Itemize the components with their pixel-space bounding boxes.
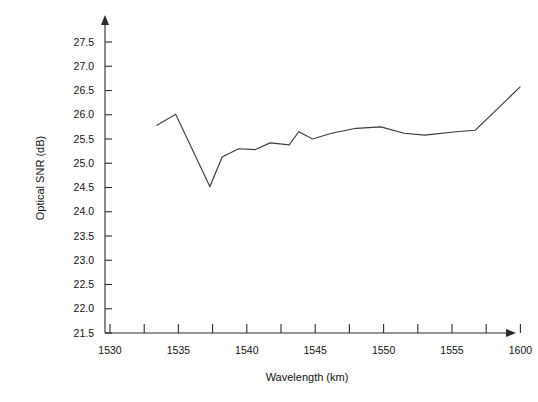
y-tick-label: 22.0 [74, 302, 95, 314]
y-tick-label: 24.0 [74, 205, 95, 217]
line-chart-canvas: 21.522.022.523.023.524.024.525.025.526.0… [0, 0, 538, 402]
x-axis-ticks [110, 324, 520, 333]
y-tick-label: 25.5 [74, 133, 95, 145]
x-tick-label: 1540 [235, 344, 259, 356]
x-tick-label: 1545 [304, 344, 328, 356]
x-tick-label: 1535 [167, 344, 191, 356]
y-tick-label: 26.5 [74, 84, 95, 96]
y-tick-label: 24.5 [74, 181, 95, 193]
y-axis-title: Optical SNR (dB) [34, 136, 46, 220]
chart-figure: 21.522.022.523.023.524.024.525.025.526.0… [0, 0, 538, 402]
y-axis-ticks [105, 42, 112, 333]
y-tick-label: 26.0 [74, 108, 95, 120]
y-tick-label: 25.0 [74, 157, 95, 169]
x-tick-label: 1555 [440, 344, 464, 356]
y-axis-tick-labels: 21.522.022.523.023.524.024.525.025.526.0… [74, 36, 95, 339]
y-tick-label: 27.5 [74, 36, 95, 48]
y-tick-label: 22.5 [74, 278, 95, 290]
y-tick-label: 27.0 [74, 60, 95, 72]
x-axis-title: Wavelength (km) [266, 371, 349, 383]
y-tick-label: 21.5 [74, 327, 95, 339]
y-axis-arrowhead [101, 15, 109, 25]
x-tick-label: 1550 [372, 344, 396, 356]
x-tick-label: 1530 [98, 344, 122, 356]
y-tick-label: 23.0 [74, 254, 95, 266]
x-axis-tick-labels: 1530153515401545155015551600 [98, 344, 532, 356]
axes [101, 15, 516, 337]
series-line-optical-snr [157, 87, 521, 187]
y-tick-label: 23.5 [74, 230, 95, 242]
x-tick-label: 1600 [509, 344, 533, 356]
x-axis-arrowhead [506, 329, 516, 337]
data-series-group [157, 87, 521, 187]
